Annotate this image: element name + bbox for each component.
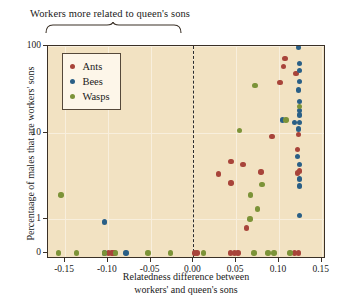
data-point-wasps	[248, 192, 253, 197]
data-point-ants	[277, 80, 282, 85]
data-point-ants	[235, 250, 240, 255]
data-point-wasps	[145, 250, 150, 255]
legend-marker-wasps	[70, 94, 75, 99]
data-point-wasps	[251, 250, 256, 255]
data-point-wasps	[283, 117, 288, 122]
data-point-bees	[297, 79, 302, 84]
data-point-bees	[296, 45, 301, 50]
x-axis-label-line2: workers' and queen's sons	[47, 283, 325, 296]
legend-item: Wasps	[70, 89, 110, 104]
data-point-wasps	[259, 182, 264, 187]
data-point-wasps	[252, 83, 257, 88]
x-tick-label: 0.15	[312, 264, 329, 274]
data-point-bees	[297, 61, 302, 66]
data-point-ants	[228, 159, 233, 164]
legend-item: Ants	[70, 59, 110, 74]
data-point-ants	[240, 162, 245, 167]
data-point-bees	[296, 126, 301, 131]
data-point-bees	[292, 120, 297, 125]
data-point-bees	[297, 112, 302, 117]
legend-item: Bees	[70, 74, 110, 89]
data-point-bees	[297, 183, 302, 188]
data-point-ants	[194, 250, 199, 255]
legend-marker-ants	[70, 64, 75, 69]
x-tick-mark	[107, 258, 108, 262]
data-point-ants	[296, 132, 301, 137]
data-point-bees	[297, 68, 302, 73]
data-point-ants	[281, 64, 286, 69]
data-point-wasps	[113, 250, 118, 255]
data-point-wasps	[102, 250, 107, 255]
data-point-ants	[296, 250, 301, 255]
y-tick-label: 0	[15, 247, 41, 257]
data-point-wasps	[58, 192, 63, 197]
data-point-ants	[269, 134, 274, 139]
bracket-annotation-label: Workers more related to queen's sons	[30, 8, 190, 19]
figure: Workers more related to queen's sons Per…	[0, 0, 342, 304]
data-point-wasps	[271, 250, 276, 255]
data-point-bees	[297, 213, 302, 218]
x-tick-mark	[192, 258, 193, 262]
data-point-ants	[216, 171, 221, 176]
data-point-bees	[102, 219, 107, 224]
legend-label-bees: Bees	[82, 76, 102, 87]
y-tick-label: 1	[15, 213, 41, 223]
legend: Ants Bees Wasps	[62, 53, 121, 110]
zero-reference-line	[193, 46, 194, 257]
data-point-bees	[297, 120, 302, 125]
data-point-wasps	[168, 250, 173, 255]
gridline-vertical	[322, 46, 323, 257]
bracket-icon	[44, 22, 184, 34]
x-tick-mark	[235, 258, 236, 262]
data-point-wasps	[265, 250, 270, 255]
data-point-wasps	[287, 250, 292, 255]
data-point-ants	[244, 225, 249, 230]
gridline-vertical	[236, 46, 237, 257]
y-tick-mark	[43, 218, 47, 219]
data-point-wasps	[201, 250, 206, 255]
x-tick-mark	[278, 258, 279, 262]
gridline-horizontal	[48, 46, 324, 47]
y-tick-mark	[43, 252, 47, 253]
data-point-bees	[297, 176, 302, 181]
y-tick-mark	[43, 45, 47, 46]
gridline-horizontal	[48, 133, 324, 134]
x-tick-mark	[321, 258, 322, 262]
data-point-ants	[297, 168, 302, 173]
data-point-bees	[295, 154, 300, 159]
data-point-wasps	[74, 250, 79, 255]
x-tick-label: -0.15	[54, 264, 74, 274]
gridline-vertical	[279, 46, 280, 257]
x-tick-label: 0.10	[270, 264, 287, 274]
data-point-wasps	[255, 206, 260, 211]
x-tick-mark	[64, 258, 65, 262]
x-tick-label: -0.05	[140, 264, 160, 274]
y-tick-label: 10	[15, 127, 41, 137]
data-point-bees	[297, 162, 302, 167]
x-tick-label: 0.05	[227, 264, 244, 274]
data-point-ants	[282, 56, 287, 61]
gridline-horizontal	[48, 219, 324, 220]
data-point-ants	[228, 180, 233, 185]
legend-label-ants: Ants	[82, 61, 102, 72]
x-tick-label: 0.00	[184, 264, 201, 274]
legend-marker-bees	[70, 79, 75, 84]
data-point-wasps	[56, 250, 61, 255]
x-tick-mark	[150, 258, 151, 262]
data-point-bees	[123, 250, 128, 255]
gridline-vertical	[151, 46, 152, 257]
x-tick-label: -0.10	[97, 264, 117, 274]
data-point-ants	[258, 169, 263, 174]
y-tick-label: 100	[15, 40, 41, 50]
y-axis-label: Percentaage of males that are workers' s…	[25, 39, 36, 269]
data-point-ants	[295, 147, 300, 152]
legend-label-wasps: Wasps	[82, 91, 109, 102]
data-point-bees	[296, 87, 301, 92]
data-point-wasps	[247, 216, 252, 221]
y-tick-mark	[43, 132, 47, 133]
